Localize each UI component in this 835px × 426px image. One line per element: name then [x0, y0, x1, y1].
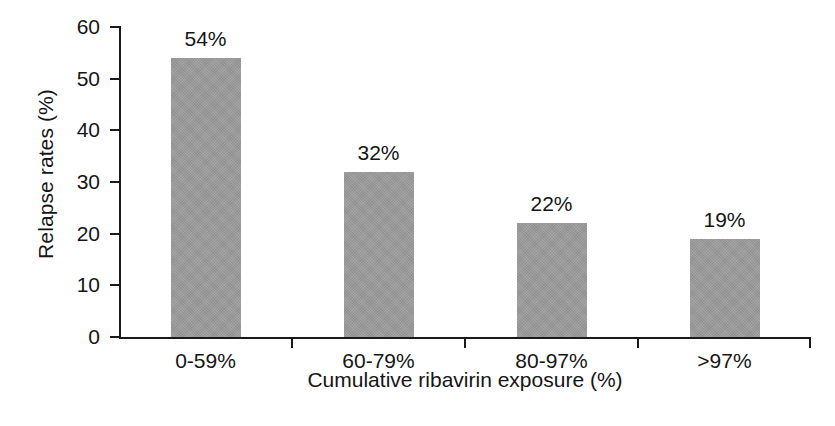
x-axis-title: Cumulative ribavirin exposure (%) [119, 368, 811, 392]
bar-value-label: 32% [357, 141, 399, 165]
y-axis-tick: 40 [110, 129, 119, 131]
y-axis-tick: 10 [110, 284, 119, 286]
y-axis-tick: 20 [110, 233, 119, 235]
x-axis-tick [637, 338, 639, 348]
bar-value-label: 54% [184, 27, 226, 51]
y-axis-tick: 0 [110, 336, 119, 338]
y-axis-tick-label: 40 [77, 118, 100, 142]
y-axis-tick: 60 [110, 26, 119, 28]
y-axis-tick-label: 20 [77, 222, 100, 246]
y-axis-tick-label: 10 [77, 273, 100, 297]
x-axis-tick [464, 338, 466, 348]
y-axis-tick-label: 50 [77, 67, 100, 91]
y-axis-tick-label: 0 [88, 325, 100, 349]
y-axis-tick-label: 60 [77, 15, 100, 39]
y-axis-tick: 50 [110, 78, 119, 80]
y-axis-tick-label: 30 [77, 170, 100, 194]
bar-value-label: 19% [703, 208, 745, 232]
bar: 32% [344, 172, 414, 337]
plot-area: 0102030405060 54%32%22%19% 0-59%60-79%80… [119, 27, 811, 337]
bar-chart-figure: Relapse rates (%) 0102030405060 54%32%22… [0, 0, 835, 426]
x-axis-tick [291, 338, 293, 348]
x-axis-end-tick [809, 338, 811, 348]
bar-value-label: 22% [530, 192, 572, 216]
bar: 19% [690, 239, 760, 337]
y-axis-line [119, 26, 121, 338]
bar: 54% [171, 58, 241, 337]
y-axis-title: Relapse rates (%) [26, 4, 66, 344]
bar: 22% [517, 223, 587, 337]
y-axis-tick: 30 [110, 181, 119, 183]
